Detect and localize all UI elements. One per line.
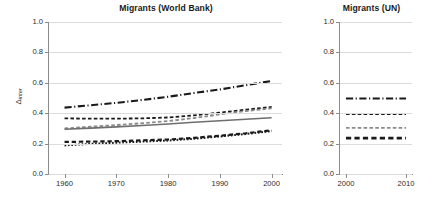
figure-migrants-delta-inter: Migrants (World Bank) Δinter 0.00.20.40.… <box>0 0 427 202</box>
panel-world-bank: Migrants (World Bank) Δinter 0.00.20.40.… <box>0 0 296 202</box>
gridline <box>49 144 282 145</box>
x-tick-mark <box>346 174 347 178</box>
x-tick-label: 2010 <box>398 180 415 188</box>
y-tick-mark <box>45 113 49 114</box>
y-tick-mark <box>336 83 340 84</box>
y-axis-title-symbol-left: Δ <box>14 99 23 104</box>
x-tick-label: 1990 <box>211 180 228 188</box>
gridline <box>49 113 282 114</box>
y-tick-mark <box>45 144 49 145</box>
y-tick-label: 0.0 <box>323 170 334 178</box>
y-tick-mark <box>336 174 340 175</box>
plot-area-right: 0.00.20.40.60.81.0 20002010 <box>340 22 412 174</box>
x-tick-mark <box>406 174 407 178</box>
gridline <box>49 83 282 84</box>
series-lines-right <box>340 22 412 174</box>
y-axis-title-subscript-left: inter <box>17 88 23 99</box>
x-tick-mark <box>65 174 66 178</box>
y-tick-mark <box>45 22 49 23</box>
gridline <box>49 22 282 23</box>
x-tick-label: 1980 <box>160 180 177 188</box>
panel-title-world-bank: Migrants (World Bank) <box>0 3 314 13</box>
y-tick-mark <box>45 83 49 84</box>
x-tick-label: 2000 <box>263 180 280 188</box>
x-tick-mark <box>168 174 169 178</box>
gridline <box>49 174 282 175</box>
x-tick-label: 1970 <box>108 180 125 188</box>
y-tick-label: 0.4 <box>323 109 334 117</box>
x-tick-mark <box>220 174 221 178</box>
y-tick-label: 0.6 <box>32 79 43 87</box>
y-tick-label: 0.4 <box>32 109 43 117</box>
y-tick-label: 1.0 <box>32 18 43 26</box>
gridline <box>340 174 412 175</box>
x-tick-label: 2000 <box>338 180 355 188</box>
x-tick-mark <box>116 174 117 178</box>
gridline <box>340 22 412 23</box>
plot-area-left: 0.00.20.40.60.81.0 19601970198019902000 <box>49 22 282 174</box>
y-tick-label: 0.8 <box>32 49 43 57</box>
gridline <box>340 113 412 114</box>
y-tick-label: 0.0 <box>32 170 43 178</box>
y-tick-mark <box>45 174 49 175</box>
gridline <box>49 52 282 53</box>
y-tick-mark <box>336 22 340 23</box>
y-tick-mark <box>336 113 340 114</box>
y-tick-mark <box>336 144 340 145</box>
x-tick-label: 1960 <box>56 180 73 188</box>
y-tick-label: 0.8 <box>323 49 334 57</box>
y-tick-mark <box>336 52 340 53</box>
gridline <box>340 83 412 84</box>
y-tick-label: 0.6 <box>323 79 334 87</box>
series-lines-left <box>49 22 282 174</box>
x-tick-mark <box>272 174 273 178</box>
gridline <box>340 52 412 53</box>
y-tick-label: 0.2 <box>32 140 43 148</box>
y-axis-title-left: Δinter <box>10 92 26 101</box>
y-tick-label: 0.2 <box>323 140 334 148</box>
gridline <box>340 144 412 145</box>
series-line-series-1 <box>65 81 272 108</box>
panel-title-un: Migrants (UN) <box>296 3 427 13</box>
y-tick-mark <box>45 52 49 53</box>
y-tick-label: 1.0 <box>323 18 334 26</box>
